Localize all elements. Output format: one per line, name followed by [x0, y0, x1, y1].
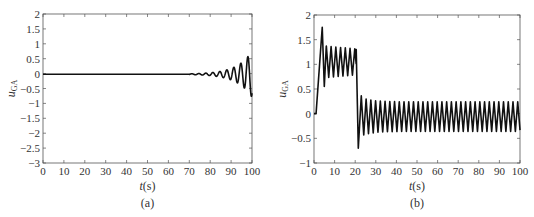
x-tick-label: 50 — [142, 165, 154, 177]
x-axis-label: t(s) — [409, 179, 425, 193]
plot-frame — [314, 15, 520, 163]
y-axis-label: uGA — [275, 80, 290, 98]
x-tick-label: 50 — [412, 165, 424, 177]
y-tick-label: −2 — [28, 127, 40, 139]
chart-a: 0102030405060708090100−3−2.5−2−1.5−1−0.5… — [4, 8, 261, 210]
y-tick-label: 0.5 — [26, 53, 40, 65]
x-tick-label: 0 — [40, 165, 46, 177]
x-tick-label: 10 — [329, 165, 341, 177]
y-axis-label: uGA — [4, 80, 19, 98]
y-tick-label: −1.5 — [20, 112, 40, 124]
x-tick-label: 0 — [311, 165, 317, 177]
x-tick-label: 90 — [226, 165, 238, 177]
x-tick-label: 60 — [432, 165, 444, 177]
x-tick-label: 40 — [121, 165, 133, 177]
x-axis-label: t(s) — [139, 179, 155, 193]
x-tick-label: 30 — [370, 165, 382, 177]
panel-label: (a) — [141, 196, 154, 210]
x-tick-label: 60 — [163, 165, 175, 177]
y-tick-label: 0 — [306, 108, 312, 120]
y-tick-label: 1 — [35, 38, 41, 50]
y-tick-label: −0.5 — [20, 83, 40, 95]
y-tick-label: 2 — [35, 8, 41, 20]
x-tick-label: 30 — [100, 165, 112, 177]
panel-label: (b) — [410, 196, 424, 210]
y-tick-label: 2 — [306, 9, 312, 21]
data-line — [314, 27, 520, 148]
x-tick-label: 100 — [512, 165, 529, 177]
x-tick-label: 80 — [473, 165, 485, 177]
x-tick-label: 70 — [453, 165, 465, 177]
chart-b: 0102030405060708090100−1−0.500.511.52uGA… — [275, 9, 529, 210]
y-tick-label: −1 — [299, 157, 311, 169]
y-tick-label: 1.5 — [297, 34, 311, 46]
figure-canvas: 0102030405060708090100−3−2.5−2−1.5−1−0.5… — [0, 0, 534, 217]
y-tick-label: −0.5 — [291, 132, 311, 144]
y-tick-label: −1 — [28, 97, 40, 109]
y-tick-label: 1.5 — [26, 23, 40, 35]
data-line — [43, 57, 252, 97]
y-tick-label: −3 — [28, 157, 40, 169]
x-tick-label: 70 — [184, 165, 196, 177]
x-tick-label: 90 — [494, 165, 506, 177]
x-tick-label: 20 — [79, 165, 91, 177]
y-tick-label: −2.5 — [20, 142, 40, 154]
x-tick-label: 40 — [391, 165, 403, 177]
x-tick-label: 100 — [244, 165, 261, 177]
x-tick-label: 10 — [58, 165, 70, 177]
y-tick-label: 0 — [35, 68, 41, 80]
x-tick-label: 20 — [350, 165, 362, 177]
y-tick-label: 0.5 — [297, 83, 311, 95]
y-tick-label: 1 — [306, 58, 312, 70]
x-tick-label: 80 — [205, 165, 217, 177]
plot-frame — [43, 14, 252, 163]
